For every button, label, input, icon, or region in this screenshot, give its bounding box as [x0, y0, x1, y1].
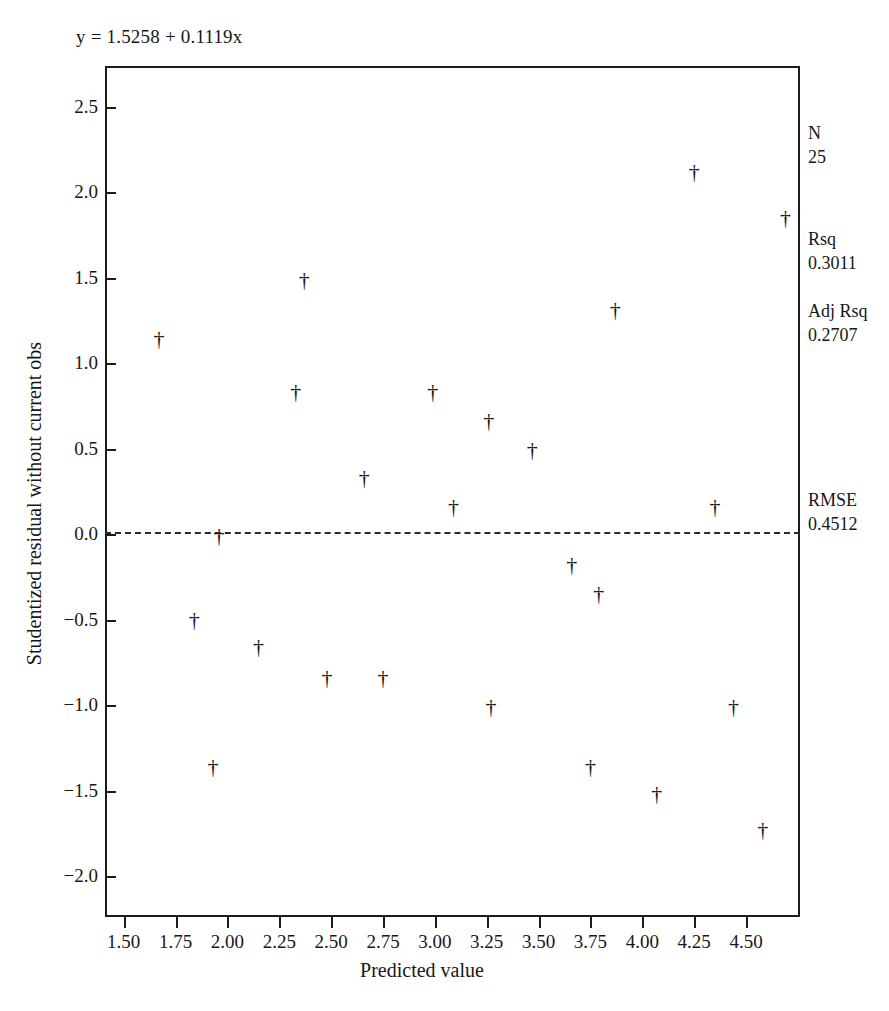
stat-adj-rsq-value: 0.2707 [808, 324, 868, 348]
data-point-marker: † [378, 667, 389, 689]
data-point-marker: † [189, 609, 200, 631]
data-point-marker: † [610, 299, 621, 321]
x-tick-label: 4.50 [729, 931, 762, 953]
zero-reference-line [105, 532, 800, 534]
y-tick-mark [105, 192, 116, 194]
regression-equation-annotation: y = 1.5258 + 0.1119x [76, 26, 243, 48]
data-point-marker: † [651, 783, 662, 805]
data-point-marker: † [757, 819, 768, 841]
x-tick-mark [279, 917, 281, 928]
stat-rsq: Rsq 0.3011 [808, 228, 857, 276]
x-tick-label: 3.50 [522, 931, 555, 953]
data-point-marker: † [593, 583, 604, 605]
x-tick-label: 3.75 [574, 931, 607, 953]
x-tick-mark [642, 917, 644, 928]
x-axis-title-text: Predicted value [360, 959, 484, 982]
data-point-marker: † [527, 439, 538, 461]
y-tick-label: 2.5 [28, 96, 98, 118]
y-tick-mark [105, 791, 116, 793]
stat-adj-rsq: Adj Rsq 0.2707 [808, 300, 868, 348]
data-point-marker: † [214, 525, 225, 547]
x-tick-mark [435, 917, 437, 928]
x-tick-label: 4.25 [678, 931, 711, 953]
data-point-marker: † [483, 410, 494, 432]
data-point-marker: † [689, 161, 700, 183]
y-tick-mark [105, 534, 116, 536]
stat-rmse-value: 0.4512 [808, 513, 858, 537]
x-tick-label: 1.75 [159, 931, 192, 953]
data-point-marker: † [728, 696, 739, 718]
x-tick-label: 1.50 [107, 931, 140, 953]
data-point-marker: † [359, 467, 370, 489]
y-tick-mark [105, 107, 116, 109]
data-point-marker: † [153, 328, 164, 350]
y-tick-label: −2.0 [28, 865, 98, 887]
x-tick-mark [590, 917, 592, 928]
data-point-marker: † [485, 696, 496, 718]
y-tick-mark [105, 363, 116, 365]
data-point-marker: † [427, 381, 438, 403]
data-point-marker: † [290, 381, 301, 403]
stat-rmse: RMSE 0.4512 [808, 489, 858, 537]
data-point-marker: † [299, 269, 310, 291]
data-point-marker: † [780, 207, 791, 229]
x-tick-mark [227, 917, 229, 928]
data-point-marker: † [566, 554, 577, 576]
y-tick-mark [105, 278, 116, 280]
x-axis-title: Predicted value [0, 959, 889, 982]
plot-area-frame [105, 66, 800, 917]
x-tick-mark [383, 917, 385, 928]
y-axis-title: Studentized residual without current obs [23, 224, 46, 784]
stat-adj-rsq-label: Adj Rsq [808, 300, 868, 324]
stat-rsq-value: 0.3011 [808, 252, 857, 276]
y-tick-mark [105, 449, 116, 451]
x-tick-label: 2.25 [263, 931, 296, 953]
y-tick-mark [105, 876, 116, 878]
x-tick-mark [176, 917, 178, 928]
stat-n-label: N [808, 122, 826, 146]
x-tick-label: 2.75 [366, 931, 399, 953]
x-tick-label: 2.00 [211, 931, 244, 953]
stat-rsq-label: Rsq [808, 228, 857, 252]
stat-n: N 25 [808, 122, 826, 170]
data-point-marker: † [585, 756, 596, 778]
data-point-marker: † [709, 496, 720, 518]
x-tick-mark [331, 917, 333, 928]
x-tick-label: 4.00 [626, 931, 659, 953]
data-point-marker: † [321, 667, 332, 689]
data-point-marker: † [207, 756, 218, 778]
x-tick-label: 3.00 [418, 931, 451, 953]
y-tick-mark [105, 705, 116, 707]
data-point-marker: † [448, 496, 459, 518]
y-tick-mark [105, 620, 116, 622]
x-tick-mark [124, 917, 126, 928]
x-tick-mark [694, 917, 696, 928]
stat-n-value: 25 [808, 146, 826, 170]
y-tick-label: 2.0 [28, 181, 98, 203]
x-tick-mark [746, 917, 748, 928]
scatter-plot-figure: y = 1.5258 + 0.1119x 2.52.01.51.00.50.0−… [0, 0, 889, 1011]
x-tick-label: 3.25 [470, 931, 503, 953]
x-tick-mark [487, 917, 489, 928]
data-point-marker: † [253, 636, 264, 658]
x-tick-label: 2.50 [315, 931, 348, 953]
stat-rmse-label: RMSE [808, 489, 858, 513]
x-tick-mark [539, 917, 541, 928]
